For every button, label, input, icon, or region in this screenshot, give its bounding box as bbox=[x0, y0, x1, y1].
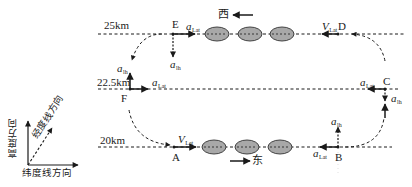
curve-c-to-d bbox=[352, 34, 385, 61]
curve-f-to-a bbox=[129, 110, 170, 145]
point-label-b: B bbox=[335, 152, 342, 163]
curve-b-to-c bbox=[345, 118, 384, 147]
point-label-c: C bbox=[383, 76, 390, 87]
altitude-label-22-5km: 22.5km bbox=[97, 77, 130, 88]
diagram-graphics bbox=[0, 0, 412, 187]
f-a-lat-label: aLat bbox=[152, 77, 166, 89]
a-v-lat-label: VLat bbox=[178, 134, 193, 146]
west-label: 西 bbox=[218, 9, 229, 20]
altitude-label-20km: 20km bbox=[100, 135, 125, 146]
f-a-lh-label: alh bbox=[117, 63, 128, 75]
point-label-a: A bbox=[172, 152, 180, 163]
point-label-e: E bbox=[172, 19, 179, 30]
axis-label-altitude: 高度方向 bbox=[8, 118, 18, 158]
east-label: 东 bbox=[252, 155, 263, 166]
point-label-f: F bbox=[121, 93, 127, 104]
axis-label-latitude: 纬度线方向 bbox=[22, 168, 72, 178]
d-v-lat-label: VLat bbox=[322, 21, 337, 33]
c-a-lat-label: aLat bbox=[360, 77, 374, 89]
point-label-d: D bbox=[338, 21, 346, 32]
curve-e-to-f bbox=[132, 34, 162, 60]
e-a-lh-label: alh bbox=[170, 59, 181, 71]
e-a-lat-label: aLat bbox=[186, 21, 200, 33]
b-a-lh-label: alh bbox=[331, 116, 342, 128]
altitude-label-25km: 25km bbox=[104, 20, 129, 31]
c-a-lh-label: alh bbox=[391, 93, 402, 105]
flight-path-diagram: 25km 22.5km 20km E D C F A B aLat alh VL… bbox=[0, 0, 412, 187]
b-a-lat-label: aLat bbox=[313, 148, 327, 160]
